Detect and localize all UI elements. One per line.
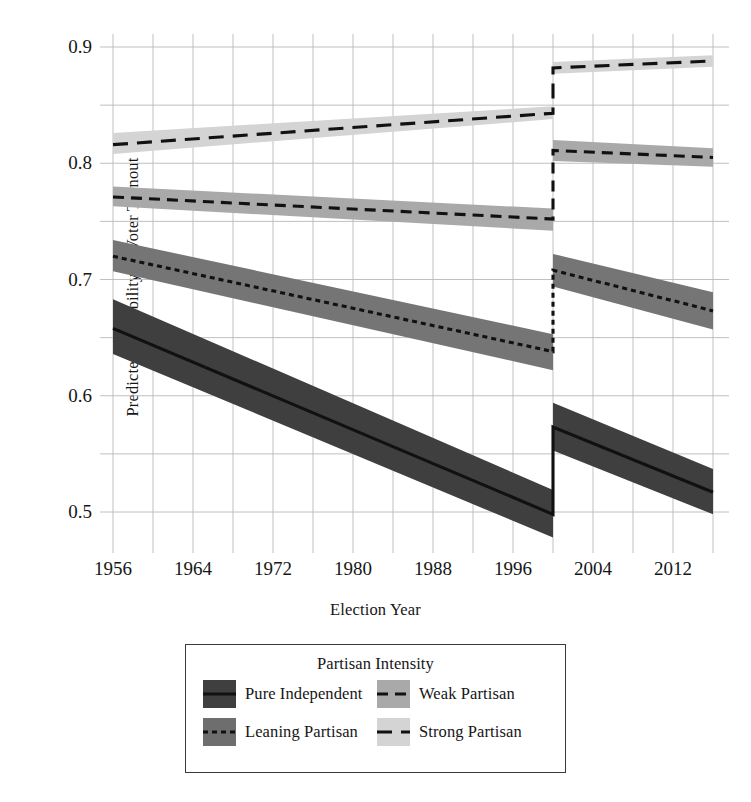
figure-voter-turnout-chart: Predicted Probability of Voter Turnout 0… <box>0 0 751 802</box>
x-tick-label: 1956 <box>73 559 153 578</box>
legend: Partisan Intensity Pure IndependentWeak … <box>185 644 566 773</box>
legend-entries: Pure IndependentWeak PartisanLeaning Par… <box>186 680 565 746</box>
legend-title: Partisan Intensity <box>186 654 565 674</box>
legend-swatch-icon <box>203 680 236 708</box>
legend-item: Weak Partisan <box>377 680 551 708</box>
x-tick-label: 1964 <box>153 559 233 578</box>
legend-item: Pure Independent <box>203 680 377 708</box>
legend-swatch-icon <box>377 718 410 746</box>
x-tick-label: 1980 <box>313 559 393 578</box>
x-tick-label: 1996 <box>473 559 553 578</box>
x-tick-label: 2012 <box>633 559 713 578</box>
legend-item: Leaning Partisan <box>203 718 377 746</box>
confidence-bands <box>113 55 713 537</box>
legend-label: Weak Partisan <box>419 684 515 704</box>
x-tick-label: 1988 <box>393 559 473 578</box>
x-tick-label: 1972 <box>233 559 313 578</box>
legend-swatch-icon <box>377 680 410 708</box>
legend-label: Pure Independent <box>245 684 363 704</box>
x-axis-title: Election Year <box>0 600 751 620</box>
legend-label: Leaning Partisan <box>245 722 358 742</box>
legend-label: Strong Partisan <box>419 722 522 742</box>
x-tick-label: 2004 <box>553 559 633 578</box>
legend-item: Strong Partisan <box>377 718 551 746</box>
x-axis-tick-labels: 19561964197219801988199620042012 <box>0 559 751 589</box>
legend-swatch-icon <box>203 718 236 746</box>
